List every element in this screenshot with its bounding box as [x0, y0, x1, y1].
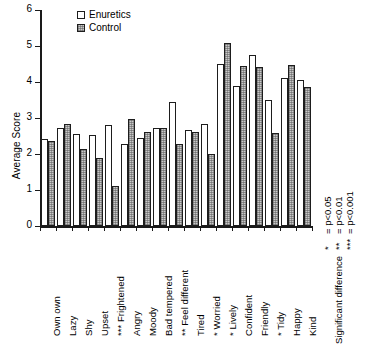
x-axis-line: [40, 226, 312, 228]
bar-group: [104, 10, 120, 226]
x-tick-0: [40, 226, 41, 231]
x-category-label: Angry: [132, 311, 142, 336]
x-tick-6: [136, 226, 137, 231]
bar-control: [192, 132, 199, 226]
bar-control: [128, 119, 135, 226]
y-tick-label-1: 1: [26, 183, 32, 195]
bar-group: [200, 10, 216, 226]
bar-group: [168, 10, 184, 226]
bar-control: [240, 66, 247, 226]
bar-enuretics: [297, 80, 304, 226]
bar-enuretics: [121, 144, 128, 226]
x-tick-7: [152, 226, 153, 231]
y-axis-label: Average Score: [11, 86, 22, 206]
bar-group: [136, 10, 152, 226]
bar-control: [304, 87, 311, 226]
bar-enuretics: [153, 128, 160, 226]
x-tick-4: [104, 226, 105, 231]
x-tick-17: [312, 226, 313, 231]
bar-control: [64, 124, 71, 226]
bar-enuretics: [57, 128, 64, 226]
bar-group: [296, 10, 312, 226]
significance-value: = p<0.001: [344, 191, 355, 234]
bar-control: [48, 141, 55, 226]
bar-control: [288, 65, 295, 226]
bar-enuretics: [233, 86, 240, 226]
bar-group: [280, 10, 296, 226]
legend-swatch-enuretics-icon: [77, 11, 85, 19]
significance-level-row: **= p<0.01: [333, 196, 344, 250]
x-category-label: Lazy: [68, 316, 78, 336]
y-tick-label-2: 2: [26, 147, 32, 159]
x-category-label: * Worried: [212, 296, 222, 336]
bar-control: [176, 144, 183, 226]
bar-enuretics: [281, 78, 288, 226]
significance-stars: **: [333, 234, 344, 250]
x-category-label: *** Frightened: [116, 276, 126, 336]
x-tick-10: [200, 226, 201, 231]
bar-enuretics: [169, 102, 176, 226]
bar-control: [80, 149, 87, 226]
x-category-label: Own own: [52, 296, 62, 336]
bar-enuretics: [41, 139, 48, 226]
x-tick-11: [216, 226, 217, 231]
legend-swatch-control-icon: [77, 24, 85, 32]
legend-item-control: Control: [77, 21, 131, 34]
x-tick-12: [232, 226, 233, 231]
x-axis-category-labels: Own ownLazyShyUpset*** FrightenedAngryMo…: [40, 232, 312, 344]
significance-level-row: ***= p<0.001: [344, 191, 355, 250]
significance-note-title: Significant difference: [322, 256, 344, 344]
bar-enuretics: [185, 130, 192, 226]
x-category-label: * Tidy: [276, 312, 286, 336]
significance-note: Significant difference *= p<0.05**= p<0.…: [322, 134, 367, 344]
x-category-label: Shy: [84, 319, 94, 336]
x-category-label: Bad tempered: [164, 276, 174, 336]
x-tick-14: [264, 226, 265, 231]
significance-level-row: *= p<0.05: [322, 196, 333, 250]
bar-control: [272, 133, 279, 226]
x-category-label: ** Feel different: [180, 270, 190, 336]
x-tick-9: [184, 226, 185, 231]
bar-control: [96, 158, 103, 226]
x-category-label: Moody: [148, 307, 158, 336]
bar-enuretics: [201, 124, 208, 226]
bar-group: [120, 10, 136, 226]
y-tick-label-6: 6: [26, 3, 32, 15]
legend-item-enuretics: Enuretics: [77, 8, 131, 21]
x-tick-2: [72, 226, 73, 231]
y-tick-label-5: 5: [26, 39, 32, 51]
plot-area: 0123456: [40, 10, 312, 226]
x-tick-5: [120, 226, 121, 231]
bar-enuretics: [249, 55, 256, 226]
x-category-label: Confident: [244, 295, 254, 336]
significance-levels: *= p<0.05**= p<0.01***= p<0.001: [322, 191, 355, 250]
bar-group: [184, 10, 200, 226]
bar-enuretics: [89, 135, 96, 226]
x-category-label: Tired: [196, 314, 206, 336]
y-tick-label-0: 0: [26, 219, 32, 231]
bar-group: [56, 10, 72, 226]
bar-group: [216, 10, 232, 226]
chart-legend: Enuretics Control: [77, 8, 131, 34]
x-tick-1: [56, 226, 57, 231]
x-tick-8: [168, 226, 169, 231]
significance-stars: ***: [344, 234, 355, 250]
x-tick-3: [88, 226, 89, 231]
bar-enuretics: [217, 64, 224, 226]
legend-label-control: Control: [89, 21, 121, 34]
bar-group: [248, 10, 264, 226]
bar-control: [144, 132, 151, 226]
significance-stars: *: [322, 234, 333, 250]
bar-group: [72, 10, 88, 226]
bar-enuretics: [105, 125, 112, 226]
bar-control: [256, 67, 263, 226]
y-tick-label-3: 3: [26, 111, 32, 123]
bar-group: [88, 10, 104, 226]
x-category-label: Upset: [100, 311, 110, 336]
legend-label-enuretics: Enuretics: [89, 8, 131, 21]
bar-group: [152, 10, 168, 226]
bar-series-group: [40, 10, 312, 226]
bar-control: [208, 154, 215, 226]
bar-enuretics: [137, 138, 144, 226]
y-tick-label-4: 4: [26, 75, 32, 87]
